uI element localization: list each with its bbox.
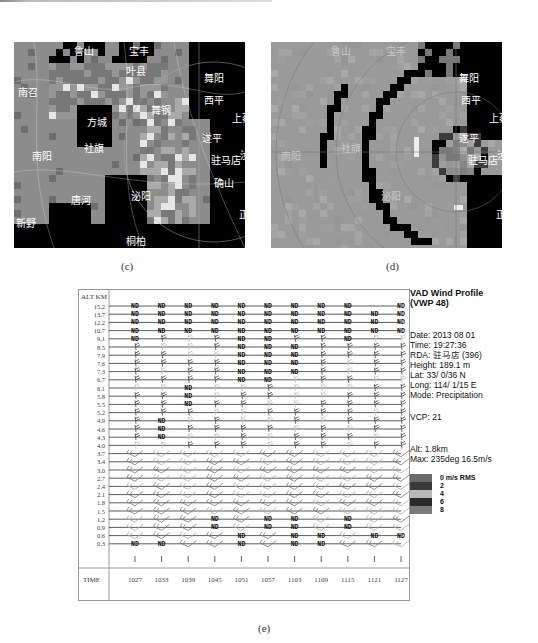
- svg-text:ND: ND: [211, 303, 219, 310]
- svg-text:ND: ND: [397, 533, 405, 540]
- svg-text:ND: ND: [184, 303, 192, 310]
- svg-text:ND: ND: [158, 303, 166, 310]
- svg-text:5.5: 5.5: [97, 401, 105, 408]
- svg-text:ND: ND: [317, 319, 325, 326]
- svg-text:2.7: 2.7: [97, 475, 106, 482]
- svg-text:ND: ND: [317, 311, 325, 318]
- map-label: 桐柏: [126, 235, 146, 247]
- vwp-vcp: VCP: 21: [410, 412, 538, 422]
- svg-text:1115: 1115: [341, 576, 355, 584]
- svg-text:15.2: 15.2: [94, 303, 105, 310]
- svg-text:ND: ND: [291, 541, 299, 548]
- svg-text:7.6: 7.6: [97, 360, 106, 367]
- svg-text:ND: ND: [397, 328, 405, 335]
- map-label: 上蔡: [489, 112, 502, 124]
- svg-text:ND: ND: [211, 328, 219, 335]
- vwp-lat: Lat: 33/ 0/36 N: [410, 370, 538, 380]
- svg-text:ND: ND: [237, 533, 245, 540]
- svg-text:ND: ND: [184, 311, 192, 318]
- svg-text:2.1: 2.1: [97, 491, 105, 498]
- svg-text:13.7: 13.7: [94, 311, 106, 318]
- map-label: 唐河: [71, 194, 91, 206]
- svg-text:ND: ND: [131, 319, 139, 326]
- caption-e: (e): [258, 622, 270, 634]
- svg-text:6.7: 6.7: [97, 376, 106, 383]
- svg-text:ND: ND: [237, 541, 245, 548]
- map-label: 确山: [214, 177, 234, 189]
- svg-text:ND: ND: [344, 336, 352, 343]
- vwp-rda: RDA: 驻马店 (396): [410, 350, 538, 360]
- radar-reflectivity-panel-c: 鲁山宝丰叶县西平上蔡方城舞钢遂平驻马店汝南南阳社旗泌阳唐河确山正阳新野桐柏南召舞…: [14, 42, 245, 248]
- map-label: 上蔡: [232, 112, 245, 124]
- svg-text:ND: ND: [184, 401, 192, 408]
- svg-text:ND: ND: [237, 360, 245, 367]
- svg-text:5.2: 5.2: [97, 409, 105, 416]
- svg-text:1057: 1057: [261, 576, 276, 584]
- svg-text:ND: ND: [237, 303, 245, 310]
- vwp-time: Time: 19:27:36: [410, 340, 538, 350]
- svg-text:ND: ND: [158, 426, 166, 433]
- svg-text:1039: 1039: [181, 576, 196, 584]
- svg-text:ND: ND: [291, 524, 299, 531]
- map-label: 方城: [87, 116, 107, 128]
- svg-text:4.6: 4.6: [97, 426, 106, 433]
- map-label: 舞钢: [151, 104, 171, 116]
- svg-text:ND: ND: [211, 516, 219, 523]
- svg-text:ND: ND: [291, 369, 299, 376]
- svg-text:TIME: TIME: [83, 576, 100, 584]
- vwp-subtitle: (VWP 48): [410, 298, 538, 308]
- svg-text:ND: ND: [291, 533, 299, 540]
- svg-text:ND: ND: [237, 319, 245, 326]
- map-label: 社旗: [341, 142, 361, 154]
- map-label: 汝南: [240, 149, 245, 161]
- svg-text:ND: ND: [184, 319, 192, 326]
- svg-text:1127: 1127: [394, 576, 408, 584]
- legend-swatch: [410, 490, 432, 498]
- svg-text:1.2: 1.2: [97, 516, 105, 523]
- svg-text:1045: 1045: [208, 576, 223, 584]
- svg-text:ND: ND: [317, 541, 325, 548]
- svg-text:ND: ND: [211, 311, 219, 318]
- svg-text:4.3: 4.3: [97, 434, 105, 441]
- svg-text:ND: ND: [264, 319, 272, 326]
- svg-text:1.5: 1.5: [97, 508, 105, 515]
- map-label: 西平: [461, 95, 481, 106]
- svg-text:ND: ND: [397, 319, 405, 326]
- svg-text:0.3: 0.3: [97, 540, 105, 547]
- svg-text:0.9: 0.9: [97, 524, 105, 531]
- svg-text:ND: ND: [184, 328, 192, 335]
- svg-text:3.0: 3.0: [97, 467, 105, 474]
- legend-item: 2: [410, 482, 538, 490]
- svg-text:ND: ND: [158, 418, 166, 425]
- svg-text:1103: 1103: [288, 576, 302, 584]
- svg-text:ND: ND: [344, 303, 352, 310]
- svg-text:2.4: 2.4: [97, 483, 106, 490]
- legend-swatch: [410, 498, 432, 506]
- svg-text:1121: 1121: [368, 576, 382, 584]
- svg-text:ND: ND: [264, 516, 272, 523]
- map-label: 宝丰: [129, 45, 149, 57]
- svg-text:ND: ND: [264, 369, 272, 376]
- svg-text:ND: ND: [264, 336, 272, 343]
- caption-c: (c): [121, 260, 133, 272]
- map-label: 叶县: [126, 66, 146, 77]
- svg-text:5.8: 5.8: [97, 393, 105, 400]
- svg-text:ND: ND: [317, 328, 325, 335]
- legend-label: 0 m/s RMS: [440, 473, 475, 483]
- svg-text:12.2: 12.2: [94, 319, 105, 326]
- svg-text:ND: ND: [370, 319, 378, 326]
- caption-d: (d): [386, 260, 399, 272]
- page-top-rule: [0, 0, 272, 2]
- svg-text:ND: ND: [158, 541, 166, 548]
- svg-text:ND: ND: [158, 319, 166, 326]
- map-label: 遂平: [459, 132, 479, 144]
- vwp-mode: Mode: Precipitation: [410, 390, 538, 400]
- svg-text:ND: ND: [291, 319, 299, 326]
- svg-text:9.1: 9.1: [97, 335, 105, 342]
- vwp-max: Max: 235deg 16.5m/s: [410, 454, 538, 464]
- svg-text:3.4: 3.4: [97, 458, 106, 465]
- legend-swatch: [410, 482, 432, 490]
- vwp-long: Long: 114/ 1/15 E: [410, 380, 538, 390]
- svg-text:ND: ND: [264, 377, 272, 384]
- legend-swatch: [410, 506, 432, 514]
